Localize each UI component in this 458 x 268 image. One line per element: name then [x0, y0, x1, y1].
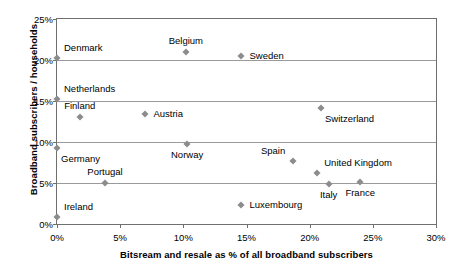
x-tick-label: 0% — [50, 232, 64, 243]
data-point-marker — [238, 202, 245, 209]
data-point-marker — [238, 52, 245, 59]
data-point-label: Austria — [153, 109, 183, 119]
y-tick-label: 20% — [13, 55, 53, 66]
x-tick-label: 30% — [426, 232, 445, 243]
x-tick-mark — [57, 224, 58, 228]
x-tick-label: 10% — [174, 232, 193, 243]
data-point-label: Switzerland — [325, 114, 374, 124]
data-point-label: Spain — [261, 146, 285, 156]
y-axis-title: Broadband subscribers / households — [28, 15, 39, 205]
x-tick-mark — [310, 224, 311, 228]
data-point-marker — [325, 180, 332, 187]
y-gridline — [57, 101, 436, 102]
y-tick-mark — [53, 19, 57, 20]
x-tick-mark — [436, 224, 437, 228]
y-tick-label: 0% — [13, 219, 53, 230]
x-axis-title: Bitsream and resale as % of all broadban… — [56, 249, 437, 260]
x-tick-mark — [247, 224, 248, 228]
x-tick-mark — [373, 224, 374, 228]
data-point-marker — [357, 179, 364, 186]
data-point-label: France — [345, 188, 375, 198]
data-point-marker — [317, 104, 324, 111]
data-point-marker — [53, 214, 60, 221]
data-point-marker — [101, 179, 108, 186]
y-gridline — [57, 142, 436, 143]
data-point-label: Germany — [61, 154, 100, 164]
x-tick-mark — [120, 224, 121, 228]
data-point-label: Luxembourg — [249, 200, 302, 210]
data-point-marker — [290, 157, 297, 164]
data-point-marker — [76, 114, 83, 121]
x-tick-label: 25% — [363, 232, 382, 243]
data-point-marker — [314, 170, 321, 177]
data-point-label: Italy — [320, 190, 337, 200]
data-point-label: Portugal — [87, 167, 122, 177]
x-tick-label: 20% — [300, 232, 319, 243]
x-tick-label: 15% — [237, 232, 256, 243]
y-gridline — [57, 183, 436, 184]
scatter-chart-figure: Broadband subscribers / households 0%5%1… — [0, 0, 458, 268]
plot-area: 0%5%10%15%20%25%0%5%10%15%20%25%30%Denma… — [56, 18, 437, 225]
y-tick-label: 10% — [13, 137, 53, 148]
data-point-marker — [182, 48, 189, 55]
data-point-label: United Kingdom — [324, 158, 392, 168]
data-point-label: Ireland — [64, 203, 93, 213]
data-point-marker — [142, 111, 149, 118]
y-tick-label: 5% — [13, 178, 53, 189]
data-point-label: Norway — [171, 150, 203, 160]
y-tick-label: 25% — [13, 14, 53, 25]
data-point-label: Belgium — [169, 36, 203, 46]
y-tick-label: 15% — [13, 96, 53, 107]
data-point-label: Finland — [64, 102, 95, 112]
y-tick-mark — [53, 183, 57, 184]
y-tick-mark — [53, 142, 57, 143]
x-tick-label: 5% — [113, 232, 127, 243]
data-point-label: Denmark — [64, 43, 103, 53]
y-gridline — [57, 60, 436, 61]
data-point-marker — [53, 144, 60, 151]
data-point-label: Sweden — [249, 51, 283, 61]
x-tick-mark — [183, 224, 184, 228]
data-point-label: Netherlands — [64, 85, 115, 95]
